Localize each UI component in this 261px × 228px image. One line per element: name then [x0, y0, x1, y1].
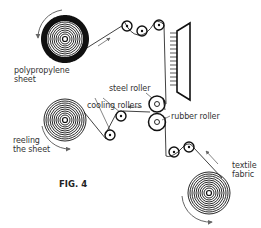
lamination-diagram: polypropylene sheet steel roller cooling…	[0, 0, 261, 228]
rubber-roller	[149, 114, 166, 131]
sheet-direction-arrow	[98, 38, 110, 46]
label-polypropylene-line1: polypropylene	[14, 66, 70, 75]
label-rubber-roller: rubber roller	[171, 112, 220, 121]
label-polypropylene-line2: sheet	[14, 75, 70, 84]
diagram-canvas	[0, 0, 261, 228]
label-polypropylene: polypropylene sheet	[14, 66, 70, 84]
label-textile-line2: fabric	[232, 170, 256, 179]
textile-direction-arrow	[206, 151, 218, 164]
label-textile-line1: textile	[232, 161, 256, 170]
label-reeling: reeling the sheet	[13, 136, 50, 154]
textile-reel	[188, 172, 230, 214]
label-cooling-rollers: cooling rollers	[87, 101, 142, 110]
take-up-reel	[44, 99, 86, 141]
figure-caption: FIG. 4	[59, 179, 87, 189]
extruder-panel	[170, 23, 190, 100]
label-reeling-line1: reeling	[13, 136, 50, 145]
label-steel-roller: steel roller	[109, 84, 150, 93]
steel-roller	[149, 96, 165, 112]
polypropylene-reel	[44, 18, 86, 60]
label-reeling-line2: the sheet	[13, 145, 50, 154]
label-textile: textile fabric	[232, 161, 256, 179]
